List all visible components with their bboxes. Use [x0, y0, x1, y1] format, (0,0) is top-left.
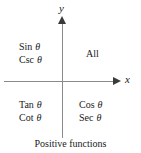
figure-caption: Positive functions [0, 138, 141, 150]
quadrant-3-variable-2: θ [36, 112, 41, 123]
trig-quadrant-diagram: x y Sinθ Cscθ All Tanθ Cotθ Cosθ Secθ Po [0, 0, 141, 153]
quadrant-3-line-2: Cotθ [19, 111, 42, 124]
x-axis-line [4, 81, 115, 82]
y-axis-arrowhead-icon [58, 16, 66, 24]
quadrant-2-function-1: Sin [19, 41, 32, 52]
quadrant-3-function-2: Cot [19, 112, 33, 123]
quadrant-2-line-2: Cscθ [19, 53, 42, 66]
quadrant-4-variable-1: θ [98, 99, 103, 110]
quadrant-4-variable-2: θ [96, 112, 101, 123]
quadrant-3-label-group: Tanθ Cotθ [19, 98, 42, 124]
x-axis-label: x [125, 74, 130, 85]
quadrant-4-function-1: Cos [79, 99, 95, 110]
quadrant-3-variable-1: θ [37, 99, 42, 110]
quadrant-2-function-2: Csc [19, 54, 34, 65]
quadrant-2-label-group: Sinθ Cscθ [19, 40, 42, 66]
quadrant-4-line-1: Cosθ [79, 98, 102, 111]
quadrant-3-function-1: Tan [19, 99, 34, 110]
quadrant-1-line-1: All [86, 47, 99, 60]
y-axis-label: y [59, 3, 64, 14]
quadrant-4-label-group: Cosθ Secθ [79, 98, 102, 124]
y-axis-line [62, 24, 63, 138]
quadrant-2-line-1: Sinθ [19, 40, 42, 53]
quadrant-2-variable-2: θ [37, 54, 42, 65]
quadrant-1-function-1: All [86, 48, 99, 59]
quadrant-4-line-2: Secθ [79, 111, 102, 124]
quadrant-1-label-group: All [86, 47, 99, 60]
quadrant-4-function-2: Sec [79, 112, 93, 123]
quadrant-3-line-1: Tanθ [19, 98, 42, 111]
quadrant-2-variable-1: θ [35, 41, 40, 52]
x-axis-arrowhead-icon [113, 77, 121, 85]
